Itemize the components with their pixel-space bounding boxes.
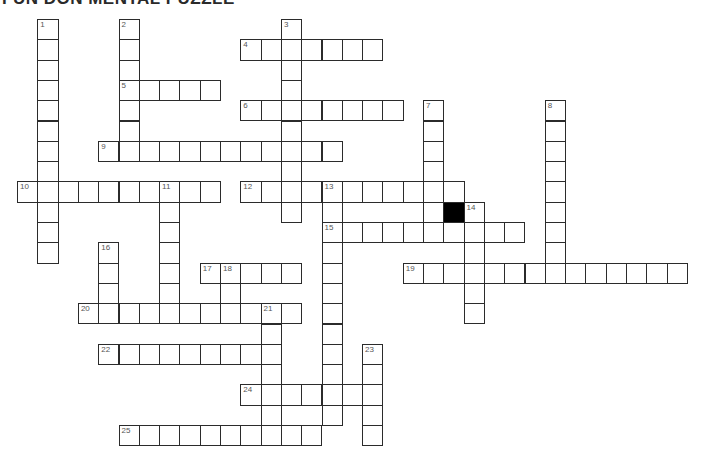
crossword-cell[interactable] (261, 344, 282, 365)
crossword-cell[interactable] (342, 384, 363, 405)
crossword-cell[interactable] (139, 344, 160, 365)
crossword-cell[interactable] (159, 283, 180, 304)
crossword-cell[interactable] (423, 263, 444, 284)
crossword-cell[interactable] (362, 100, 383, 121)
crossword-cell[interactable] (159, 222, 180, 243)
crossword-cell[interactable] (281, 303, 302, 324)
crossword-cell[interactable] (139, 80, 160, 101)
crossword-cell[interactable] (322, 384, 343, 405)
crossword-cell[interactable] (281, 181, 302, 202)
crossword-cell[interactable] (220, 141, 241, 162)
crossword-cell[interactable] (281, 202, 302, 223)
crossword-cell[interactable] (240, 141, 261, 162)
crossword-cell[interactable] (240, 303, 261, 324)
crossword-cell[interactable] (159, 141, 180, 162)
crossword-cell[interactable] (281, 263, 302, 284)
crossword-cell[interactable] (200, 141, 221, 162)
crossword-cell[interactable]: 21 (261, 303, 282, 324)
crossword-cell[interactable] (301, 384, 322, 405)
crossword-cell[interactable] (606, 263, 627, 284)
crossword-cell[interactable] (179, 344, 200, 365)
crossword-cell[interactable] (464, 303, 485, 324)
crossword-cell[interactable] (37, 202, 58, 223)
crossword-cell[interactable] (322, 263, 343, 284)
crossword-cell[interactable] (281, 161, 302, 182)
crossword-cell[interactable] (484, 263, 505, 284)
crossword-cell[interactable]: 22 (98, 344, 119, 365)
crossword-cell[interactable]: 20 (78, 303, 99, 324)
crossword-cell[interactable] (322, 405, 343, 426)
crossword-cell[interactable] (159, 425, 180, 446)
crossword-cell[interactable] (200, 303, 221, 324)
crossword-cell[interactable] (37, 121, 58, 142)
crossword-cell[interactable] (342, 39, 363, 60)
crossword-cell[interactable] (200, 80, 221, 101)
crossword-cell[interactable]: 16 (98, 242, 119, 263)
crossword-cell[interactable] (281, 384, 302, 405)
crossword-cell[interactable]: 6 (240, 100, 261, 121)
crossword-cell[interactable] (261, 384, 282, 405)
crossword-cell[interactable] (443, 222, 464, 243)
crossword-cell[interactable] (545, 141, 566, 162)
crossword-cell[interactable] (159, 80, 180, 101)
crossword-cell[interactable] (119, 100, 140, 121)
crossword-cell[interactable] (301, 39, 322, 60)
crossword-cell[interactable] (159, 242, 180, 263)
crossword-cell[interactable]: 19 (403, 263, 424, 284)
crossword-cell[interactable] (179, 425, 200, 446)
crossword-cell[interactable] (240, 263, 261, 284)
crossword-cell[interactable] (281, 121, 302, 142)
crossword-cell[interactable] (98, 303, 119, 324)
crossword-cell[interactable] (139, 425, 160, 446)
crossword-cell[interactable] (261, 39, 282, 60)
crossword-cell[interactable] (484, 222, 505, 243)
crossword-cell[interactable] (545, 202, 566, 223)
crossword-cell[interactable] (322, 364, 343, 385)
crossword-cell[interactable] (261, 324, 282, 345)
crossword-cell[interactable] (281, 39, 302, 60)
crossword-cell[interactable] (545, 263, 566, 284)
crossword-cell[interactable] (565, 263, 586, 284)
crossword-cell[interactable] (240, 344, 261, 365)
crossword-cell[interactable]: 25 (119, 425, 140, 446)
crossword-cell[interactable] (119, 303, 140, 324)
crossword-cell[interactable]: 2 (119, 19, 140, 40)
crossword-cell[interactable]: 3 (281, 19, 302, 40)
crossword-cell[interactable] (423, 161, 444, 182)
crossword-cell[interactable] (78, 181, 99, 202)
crossword-cell[interactable] (159, 202, 180, 223)
crossword-cell[interactable] (423, 202, 444, 223)
crossword-cell[interactable] (423, 141, 444, 162)
crossword-cell[interactable] (464, 263, 485, 284)
crossword-cell[interactable] (119, 121, 140, 142)
crossword-cell[interactable] (159, 263, 180, 284)
crossword-cell[interactable] (119, 60, 140, 81)
crossword-cell[interactable]: 14 (464, 202, 485, 223)
crossword-cell[interactable] (626, 263, 647, 284)
crossword-cell[interactable] (139, 181, 160, 202)
crossword-cell[interactable] (261, 425, 282, 446)
crossword-cell[interactable] (159, 344, 180, 365)
crossword-cell[interactable] (179, 303, 200, 324)
crossword-cell[interactable] (220, 283, 241, 304)
crossword-cell[interactable] (322, 303, 343, 324)
crossword-cell[interactable] (139, 303, 160, 324)
crossword-cell[interactable] (200, 181, 221, 202)
crossword-cell[interactable] (301, 425, 322, 446)
crossword-cell[interactable] (179, 80, 200, 101)
crossword-cell[interactable] (261, 100, 282, 121)
crossword-cell[interactable]: 23 (362, 344, 383, 365)
crossword-cell[interactable] (261, 181, 282, 202)
crossword-cell[interactable] (464, 242, 485, 263)
crossword-cell[interactable] (403, 181, 424, 202)
crossword-cell[interactable]: 7 (423, 100, 444, 121)
crossword-cell[interactable] (37, 100, 58, 121)
crossword-cell[interactable] (200, 425, 221, 446)
crossword-cell[interactable] (98, 283, 119, 304)
crossword-cell[interactable] (362, 364, 383, 385)
crossword-cell[interactable] (322, 324, 343, 345)
crossword-cell[interactable] (37, 39, 58, 60)
crossword-cell[interactable] (37, 161, 58, 182)
crossword-cell[interactable]: 12 (240, 181, 261, 202)
crossword-cell[interactable]: 5 (119, 80, 140, 101)
